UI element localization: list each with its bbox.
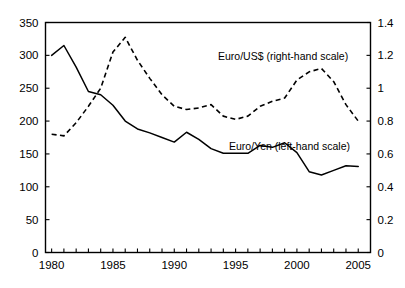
y-right-tick-label: 0.2 bbox=[378, 214, 394, 226]
x-tick-label: 1995 bbox=[223, 259, 249, 271]
y-left-tick-label: 300 bbox=[19, 49, 38, 61]
y-left-tick-label: 100 bbox=[19, 181, 38, 193]
x-tick-label: 2005 bbox=[345, 259, 371, 271]
x-axis-tick-labels: 198019851990199520002005 bbox=[39, 259, 371, 271]
y-right-tick-label: 1 bbox=[378, 82, 384, 94]
y-left-tick-label: 350 bbox=[19, 17, 38, 29]
y-left-tick-label: 250 bbox=[19, 82, 38, 94]
y-left-tick-label: 0 bbox=[32, 247, 38, 259]
y-axis-left-tick-labels: 050100150200250300350 bbox=[19, 17, 38, 259]
y-right-tick-label: 1.4 bbox=[378, 17, 395, 29]
y-axis-right-tick-labels: 00.20.40.60.811.21.4 bbox=[378, 17, 395, 259]
y-right-tick-label: 0.6 bbox=[378, 148, 394, 160]
series-label-euro-usd: Euro/US$ (right-hand scale) bbox=[218, 50, 348, 62]
series-label-euro-yen: Euro/Yen (left-hand scale) bbox=[229, 140, 350, 152]
x-tick-label: 1980 bbox=[39, 259, 65, 271]
y-right-tick-label: 1.2 bbox=[378, 49, 394, 61]
y-right-tick-label: 0.8 bbox=[378, 115, 394, 127]
chart-container: 198019851990199520002005 050100150200250… bbox=[0, 0, 405, 288]
series-line-euro-yen bbox=[52, 46, 359, 175]
line-chart: 198019851990199520002005 050100150200250… bbox=[0, 0, 405, 288]
x-tick-label: 1990 bbox=[161, 259, 187, 271]
y-left-tick-label: 50 bbox=[26, 214, 39, 226]
x-tick-label: 2000 bbox=[284, 259, 310, 271]
x-tick-label: 1985 bbox=[100, 259, 126, 271]
y-right-tick-label: 0.4 bbox=[378, 181, 395, 193]
y-left-tick-label: 200 bbox=[19, 115, 38, 127]
y-right-tick-label: 0 bbox=[378, 247, 384, 259]
y-left-tick-label: 150 bbox=[19, 148, 38, 160]
